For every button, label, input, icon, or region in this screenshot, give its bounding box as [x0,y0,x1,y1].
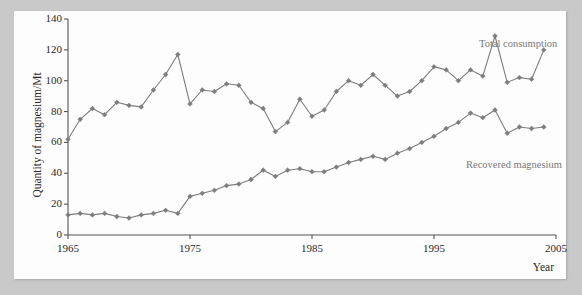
axis-lines [64,19,556,239]
series-recovered-magnesium [66,108,547,221]
chart-plot-area [0,0,582,295]
figure-container: Quantity of magnesium/Mt Year Total cons… [0,0,582,295]
series-lines [66,34,547,221]
series-total-consumption [66,34,547,142]
